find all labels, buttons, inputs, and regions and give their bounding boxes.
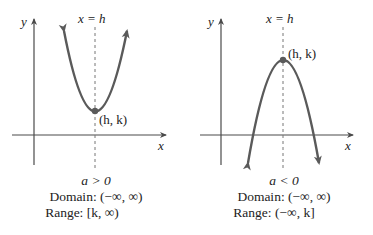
- range-label: Range: (−∞, k]: [233, 206, 314, 220]
- domain-label: Domain: (−∞, ∞): [237, 190, 330, 204]
- symmetry-line-label: x = h: [266, 12, 294, 25]
- x-axis-label: x: [345, 139, 351, 152]
- vertex-label: (h, k): [99, 113, 127, 126]
- vertex-point: [280, 57, 286, 63]
- condition-label: a > 0: [81, 174, 110, 188]
- panel-downward-parabola: [200, 19, 353, 168]
- x-axis-label: x: [158, 139, 164, 152]
- condition-label: a < 0: [269, 174, 298, 188]
- y-axis-label: y: [21, 15, 27, 28]
- domain-label: Domain: (−∞, ∞): [49, 190, 142, 204]
- panel-upward-parabola: [12, 19, 166, 168]
- vertex-label: (h, k): [288, 47, 316, 60]
- vertex-point: [92, 108, 98, 114]
- symmetry-line-label: x = h: [78, 12, 106, 25]
- range-label: Range: [k, ∞): [45, 206, 119, 220]
- y-axis-label: y: [208, 15, 214, 28]
